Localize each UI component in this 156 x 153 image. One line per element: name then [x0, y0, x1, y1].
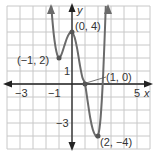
- function-graph: y x −3 −1 5 1 −3 (−1, 2) (0, 4) (1, 0) (…: [0, 0, 156, 153]
- point-label-0-4: (0, 4): [75, 20, 101, 32]
- point-label-neg1-2: (−1, 2): [17, 54, 49, 66]
- x-tick-5: 5: [134, 87, 140, 99]
- data-point: [70, 30, 75, 35]
- y-tick-neg3: −3: [56, 117, 69, 129]
- x-axis-label: x: [143, 87, 150, 99]
- data-point: [57, 56, 62, 61]
- y-axis-arrow-up-icon: [69, 3, 76, 12]
- y-axis-arrow-down-icon: [69, 142, 76, 151]
- y-tick-1: 1: [64, 65, 70, 77]
- data-point: [83, 82, 88, 87]
- x-tick-neg1: −1: [48, 87, 61, 99]
- point-label-1-0: (1, 0): [106, 71, 132, 83]
- x-tick-neg3: −3: [15, 87, 28, 99]
- point-label-2-neg4: (2, −4): [100, 136, 132, 148]
